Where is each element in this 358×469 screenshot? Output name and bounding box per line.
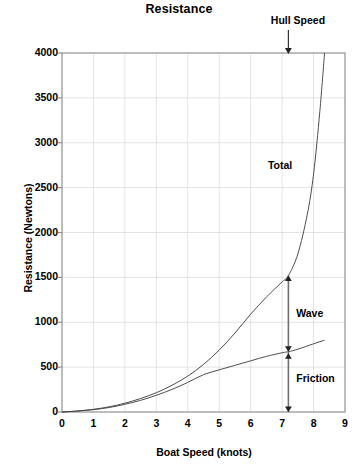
x-tick-label: 3: [146, 417, 166, 429]
x-tick-label: 2: [115, 417, 135, 429]
x-tick-label: 5: [209, 417, 229, 429]
y-tick-label: 4000: [18, 47, 58, 58]
annotation-total-label: Total: [268, 159, 292, 171]
x-tick-label: 7: [272, 417, 292, 429]
y-tick-label: 3000: [18, 137, 58, 148]
x-tick-label: 9: [335, 417, 355, 429]
y-tick-label: 2000: [18, 227, 58, 238]
annotation-friction-label: Friction: [296, 372, 335, 384]
chart-figure: Resistance Hull Speed Resistance (Newton…: [0, 0, 358, 469]
x-axis-title: Boat Speed (knots): [62, 446, 346, 458]
x-tick-label: 1: [83, 417, 103, 429]
annotation-hull-speed-label: Hull Speed: [250, 14, 346, 26]
y-tick-label: 500: [18, 361, 58, 372]
y-tick-label: 1500: [18, 271, 58, 282]
y-tick-label: 2500: [18, 182, 58, 193]
gridlines: [62, 53, 345, 412]
series-friction: [62, 340, 325, 412]
y-tick-label: 3500: [18, 92, 58, 103]
hull-speed-arrow: [285, 30, 292, 54]
annotation-wave-label: Wave: [296, 307, 323, 319]
x-tick-label: 6: [241, 417, 261, 429]
y-tick-label: 1000: [18, 316, 58, 327]
y-tick-label: 0: [18, 406, 58, 417]
x-tick-label: 8: [304, 417, 324, 429]
y-tick-labels: 05001000150020002500300035004000: [14, 0, 58, 469]
range-marker-arrow: [285, 276, 292, 412]
x-tick-label: 4: [178, 417, 198, 429]
x-tick-label: 0: [52, 417, 72, 429]
